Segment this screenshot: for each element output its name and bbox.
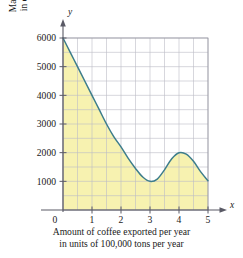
x-tick-label: 1: [90, 214, 95, 225]
x-tick-label: 0: [53, 214, 58, 225]
x-axis-letter: x: [229, 200, 235, 210]
x-tick-label: 4: [177, 214, 182, 225]
chart-plot-area: y x 100020003000400050006000 012345: [0, 0, 243, 258]
y-axis-arrowhead: [60, 19, 66, 27]
x-tick-label: 5: [206, 214, 211, 225]
y-axis-letter: y: [67, 7, 73, 17]
y-axis-label-line-1: Marginal revenue: [8, 0, 19, 46]
y-tick-label: 2000: [37, 147, 56, 158]
y-axis-label: Marginal revenue in dollars per ton: [8, 0, 30, 46]
x-axis-caption: Amount of coffee exported per year in un…: [0, 226, 243, 249]
y-tick-label: 3000: [37, 118, 56, 129]
x-tick-label: 3: [148, 214, 153, 225]
x-axis-caption-line-2: in units of 100,000 tons per year: [0, 238, 243, 250]
y-tick-label: 6000: [37, 32, 56, 43]
y-tick-label: 1000: [37, 176, 56, 187]
x-axis-caption-line-1: Amount of coffee exported per year: [0, 226, 243, 238]
x-axis-arrowhead: [220, 207, 228, 212]
y-axis-label-line-2: in dollars per ton: [19, 0, 30, 46]
y-tick-label: 4000: [37, 90, 56, 101]
x-tick-label: 2: [119, 214, 124, 225]
y-axis-ticks: 100020003000400050006000: [37, 32, 67, 186]
y-tick-label: 5000: [37, 61, 56, 72]
marginal-revenue-chart: y x 100020003000400050006000 012345 Marg…: [0, 0, 243, 258]
